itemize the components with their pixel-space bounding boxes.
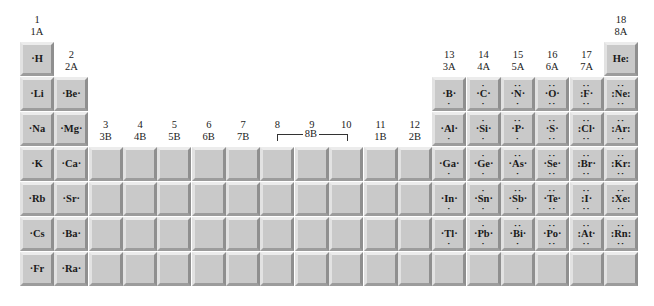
element-cell-at: :At····· — [570, 217, 604, 251]
empty-cell — [364, 182, 398, 216]
empty-cell — [157, 252, 191, 286]
group-old-label: 5A — [501, 61, 535, 73]
lewis-symbol: ·Sn··· — [474, 194, 493, 205]
group-number-label: 7 — [226, 119, 260, 131]
lewis-symbol: :Ar:···· — [611, 124, 630, 135]
lewis-symbol: :Rn:···· — [611, 229, 631, 240]
group-old-label: 3B — [89, 131, 123, 143]
lewis-symbol: ·Na — [29, 124, 45, 135]
electron-dots-icon: ·· — [617, 82, 625, 88]
empty-cell — [192, 182, 226, 216]
electron-dots-icon: · — [447, 205, 451, 211]
group-8b-label: 8B — [303, 128, 319, 140]
lewis-symbol: ·Si··· — [476, 124, 492, 135]
empty-cell — [226, 147, 260, 181]
lewis-symbol: ·N···· — [511, 89, 526, 100]
group-number-label: 11 — [364, 119, 398, 131]
lewis-symbol: ·Pb··· — [474, 229, 493, 240]
lewis-symbol: ·Rb — [29, 194, 46, 205]
element-cell-he: He: — [604, 42, 638, 76]
electron-dots-icon: ·· — [617, 205, 625, 211]
electron-dots-icon: · — [482, 240, 486, 246]
empty-cell — [260, 252, 294, 286]
electron-dots-icon: ·· — [548, 117, 556, 123]
lewis-symbol: ·Bi···· — [509, 229, 526, 240]
lewis-symbol: :At····· — [578, 229, 596, 240]
group-old-label: 6A — [535, 61, 569, 73]
empty-cell — [398, 147, 432, 181]
element-cell-bi: ·Bi···· — [501, 217, 535, 251]
element-cell-s: ·S····· — [535, 112, 569, 146]
lewis-symbol: ·K — [31, 159, 43, 170]
electron-dots-icon: ·· — [617, 100, 625, 106]
lewis-symbol: :I····· — [581, 194, 592, 205]
electron-dots-icon: ·· — [514, 117, 522, 123]
element-cell-mg: ·Mg· — [54, 112, 88, 146]
lewis-symbol: ·O····· — [545, 89, 560, 100]
electron-dots-icon: ·· — [548, 135, 556, 141]
element-cell-rb: ·Rb — [20, 182, 54, 216]
empty-cell — [329, 147, 363, 181]
group-old-label: 1A — [20, 26, 54, 38]
electron-dots-icon: ·· — [548, 100, 556, 106]
electron-dots-icon: ·· — [617, 170, 625, 176]
element-cell-ar: :Ar:···· — [604, 112, 638, 146]
empty-cell — [295, 217, 329, 251]
empty-cell — [570, 252, 604, 286]
lewis-symbol: :Cl····· — [578, 124, 596, 135]
empty-cell — [157, 147, 191, 181]
element-cell-ba: ·Ba· — [54, 217, 88, 251]
element-cell-n: ·N···· — [501, 77, 535, 111]
element-cell-p: ·P···· — [501, 112, 535, 146]
electron-dots-icon: ·· — [583, 152, 591, 158]
electron-dots-icon: ·· — [617, 135, 625, 141]
lewis-symbol: ·C··· — [476, 89, 491, 100]
element-cell-o: ·O····· — [535, 77, 569, 111]
element-cell-cl: :Cl····· — [570, 112, 604, 146]
group-old-label: 2B — [398, 131, 432, 143]
empty-cell — [192, 217, 226, 251]
element-cell-fr: ·Fr — [20, 252, 54, 286]
group-number-label: 6 — [192, 119, 226, 131]
electron-dots-icon: ·· — [617, 187, 625, 193]
element-cell-po: ·Po····· — [535, 217, 569, 251]
electron-dots-icon: · — [482, 170, 486, 176]
lewis-symbol: ·Fr — [30, 264, 45, 275]
element-cell-kr: :Kr:···· — [604, 147, 638, 181]
electron-dots-icon: · — [516, 135, 520, 141]
group-old-label: 4A — [467, 61, 501, 73]
group-number-label: 3 — [89, 119, 123, 131]
electron-dots-icon: ·· — [583, 240, 591, 246]
group-old-label: 7A — [570, 61, 604, 73]
lewis-symbol: ·Sr· — [63, 194, 81, 205]
lewis-symbol: ·Te····· — [543, 194, 561, 205]
empty-cell — [329, 182, 363, 216]
electron-dots-icon: ·· — [583, 135, 591, 141]
element-cell-se: ·Se····· — [535, 147, 569, 181]
group-number-label: 4 — [123, 119, 157, 131]
electron-dots-icon: ·· — [548, 205, 556, 211]
lewis-symbol: ·Ga·· — [439, 159, 459, 170]
element-cell-ca: ·Ca· — [54, 147, 88, 181]
element-cell-tl: ·Tl·· — [432, 217, 466, 251]
electron-dots-icon: · — [447, 170, 451, 176]
electron-dots-icon: · — [482, 187, 486, 193]
element-cell-in: ·In·· — [432, 182, 466, 216]
electron-dots-icon: ·· — [548, 152, 556, 158]
electron-dots-icon: · — [482, 117, 486, 123]
lewis-symbol: ·Tl·· — [441, 229, 458, 240]
electron-dots-icon: ·· — [514, 152, 522, 158]
element-cell-sn: ·Sn··· — [467, 182, 501, 216]
electron-dots-icon: ·· — [583, 100, 591, 106]
group-number-label: 16 — [535, 49, 569, 61]
lewis-symbol: ·Ge··· — [474, 159, 494, 170]
element-cell-al: ·Al·· — [432, 112, 466, 146]
lewis-symbol: :Xe:···· — [611, 194, 630, 205]
group-number-label: 14 — [467, 49, 501, 61]
empty-cell — [364, 217, 398, 251]
electron-dots-icon: ·· — [583, 170, 591, 176]
lewis-symbol: ·Se····· — [543, 159, 561, 170]
lewis-symbol: ·Cs — [29, 229, 44, 240]
electron-dots-icon: ·· — [583, 205, 591, 211]
element-cell-k: ·K — [20, 147, 54, 181]
